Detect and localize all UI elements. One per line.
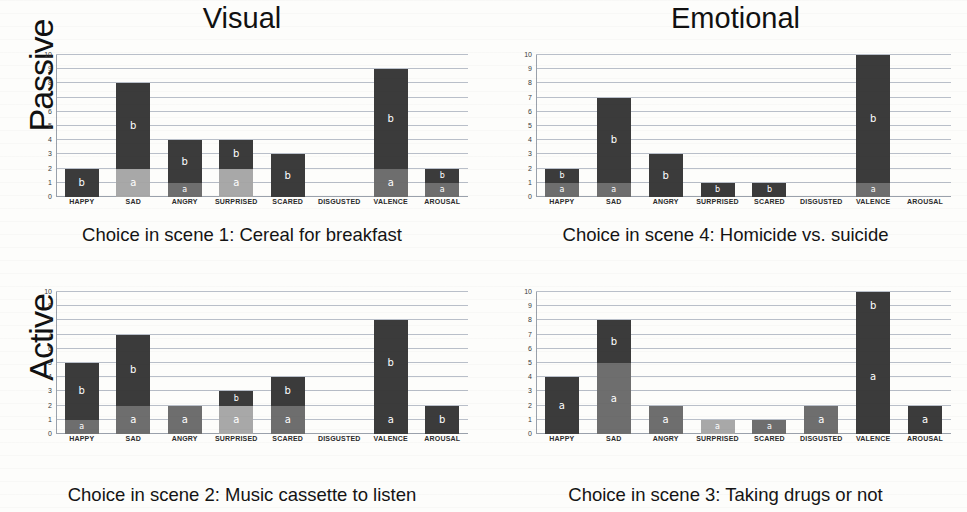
bar-column-valence[interactable]: ba (850, 55, 897, 197)
bar-segment-b: b (116, 335, 150, 406)
y-axis-line (536, 292, 537, 434)
bar[interactable]: a (649, 406, 683, 434)
bar-segment-a: a (219, 169, 253, 197)
bar-column-arousal[interactable]: ba (419, 55, 466, 197)
bar-segment-b: b (701, 183, 735, 197)
bar[interactable]: ba (271, 377, 305, 434)
x-axis-label-disgusted: DISGUSTED (316, 197, 363, 205)
bar-column-sad[interactable]: ba (110, 292, 157, 434)
bar-column-angry[interactable]: a (642, 292, 689, 434)
y-axis-line (56, 55, 57, 197)
y-axis-tick: 8 (48, 79, 52, 86)
y-axis-tick: 2 (528, 164, 532, 171)
y-axis-tick: 9 (48, 65, 52, 72)
bar[interactable]: ba (856, 292, 890, 434)
bar-column-disgusted[interactable] (316, 55, 363, 197)
y-axis-tick: 2 (48, 401, 52, 408)
bar-column-arousal[interactable] (901, 55, 948, 197)
panel-emotional-active: 109876543210 abaaaaabaa HAPPYSADANGRYSUR… (484, 256, 967, 512)
y-axis-tick: 6 (528, 107, 532, 114)
x-axis-label-surprised: SURPRISED (694, 434, 741, 442)
bar-column-disgusted[interactable]: a (798, 292, 845, 434)
y-axis-tick: 9 (48, 302, 52, 309)
bar[interactable]: b (701, 183, 735, 197)
bar[interactable]: a (701, 420, 735, 434)
bar-column-angry[interactable]: a (161, 292, 208, 434)
bar-column-valence[interactable]: ba (367, 55, 414, 197)
bar[interactable]: b (425, 406, 459, 434)
bar[interactable]: ba (374, 320, 408, 434)
bar[interactable]: ba (219, 391, 253, 434)
bar-column-surprised[interactable]: b (694, 55, 741, 197)
bar-column-valence[interactable]: ba (850, 292, 897, 434)
bar-column-surprised[interactable]: ba (213, 55, 260, 197)
bar[interactable]: a (545, 377, 579, 434)
bar-segment-b: b (65, 363, 99, 420)
x-axis-label-disgusted: DISGUSTED (798, 434, 845, 442)
bar[interactable]: a (804, 406, 838, 434)
y-axis-tick: 7 (528, 330, 532, 337)
bar-column-happy[interactable]: b (58, 55, 105, 197)
bar-column-surprised[interactable]: a (694, 292, 741, 434)
x-axis-label-valence: VALENCE (850, 197, 897, 205)
bar[interactable]: b (65, 169, 99, 197)
y-axis-tick: 1 (528, 415, 532, 422)
bar-segment-b: b (116, 83, 150, 168)
y-axis-tick: 9 (528, 302, 532, 309)
bar[interactable]: b (649, 154, 683, 197)
bar[interactable]: ba (597, 320, 631, 434)
bar-column-scared[interactable]: b (264, 55, 311, 197)
bar[interactable]: ba (116, 335, 150, 434)
bar-segment-b: b (597, 320, 631, 363)
bar-segment-a: a (597, 183, 631, 197)
bar[interactable]: ba (425, 169, 459, 197)
bar-segment-a: a (649, 406, 683, 434)
bar-column-angry[interactable]: ba (161, 55, 208, 197)
x-axis-label-arousal: AROUSAL (419, 197, 466, 205)
plot-area: 109876543210 babaabababab HAPPYSADANGRYS… (56, 292, 468, 452)
bar-column-angry[interactable]: b (642, 55, 689, 197)
bar-column-sad[interactable]: ba (110, 55, 157, 197)
bar[interactable]: ba (374, 69, 408, 197)
bar-column-valence[interactable]: ba (367, 292, 414, 434)
y-axis-tick: 9 (528, 65, 532, 72)
bar[interactable]: ba (856, 55, 890, 197)
y-axis-tick: 10 (524, 51, 532, 58)
bar-column-scared[interactable]: ba (264, 292, 311, 434)
bar-column-sad[interactable]: ba (590, 55, 637, 197)
figure-grid: Visual Passive 109876543210 bbabababbaba… (0, 0, 967, 512)
bar[interactable]: a (908, 406, 942, 434)
bar-column-happy[interactable]: a (538, 292, 585, 434)
y-axis-tick: 0 (528, 430, 532, 437)
bar-column-happy[interactable]: ba (538, 55, 585, 197)
y-axis-tick: 5 (48, 122, 52, 129)
bar-column-disgusted[interactable] (316, 292, 363, 434)
x-axis-label-scared: SCARED (264, 197, 311, 205)
x-axis-label-scared: SCARED (746, 197, 793, 205)
bar-column-scared[interactable]: a (746, 292, 793, 434)
bar-column-happy[interactable]: ba (58, 292, 105, 434)
bar[interactable]: ba (219, 140, 253, 197)
bar-column-disgusted[interactable] (798, 55, 845, 197)
bar[interactable]: ba (65, 363, 99, 434)
bar[interactable]: b (752, 183, 786, 197)
bar[interactable]: ba (116, 83, 150, 197)
bar[interactable]: ba (597, 98, 631, 197)
bar-column-arousal[interactable]: a (901, 292, 948, 434)
bar-column-scared[interactable]: b (746, 55, 793, 197)
bar-column-arousal[interactable]: b (419, 292, 466, 434)
bar[interactable]: a (168, 406, 202, 434)
bar[interactable]: a (752, 420, 786, 434)
plot-area: 109876543210 abaaaaabaa HAPPYSADANGRYSUR… (536, 292, 951, 452)
panel-caption: Choice in scene 2: Music cassette to lis… (0, 484, 484, 506)
bar-segment-b: b (168, 140, 202, 183)
y-axis-tick: 7 (48, 93, 52, 100)
bar[interactable]: ba (545, 169, 579, 197)
bar[interactable]: b (271, 154, 305, 197)
y-axis-tick: 10 (44, 288, 52, 295)
bar[interactable]: ba (168, 140, 202, 197)
x-axis-labels: HAPPYSADANGRYSURPRISEDSCAREDDISGUSTEDVAL… (536, 197, 951, 215)
bar-column-surprised[interactable]: ba (213, 292, 260, 434)
bar-column-sad[interactable]: ba (590, 292, 637, 434)
x-axis-label-sad: SAD (110, 197, 157, 205)
